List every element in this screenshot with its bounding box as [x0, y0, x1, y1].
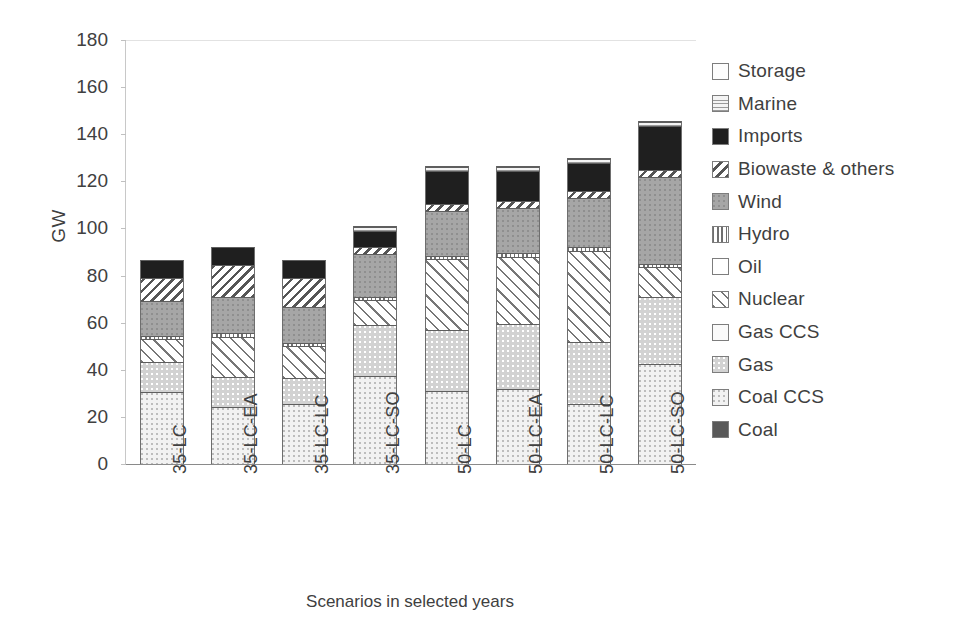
bar-segment-imports — [496, 171, 540, 202]
bar-segment-nuclear — [638, 267, 682, 296]
bar-segment-marine — [567, 159, 611, 163]
legend-item-coal-ccs[interactable]: Coal CCS — [712, 381, 952, 414]
legend-item-label: Imports — [738, 125, 803, 147]
y-tick-label: 0 — [62, 453, 108, 475]
x-tick-label-50-lc-lc: 50-LC-LC — [597, 354, 618, 474]
legend-item-label: Biowaste & others — [738, 158, 895, 180]
y-tick-mark — [121, 87, 126, 88]
bar-segment-marine — [638, 122, 682, 126]
legend-item-gas[interactable]: Gas — [712, 348, 952, 381]
legend-item-label: Oil — [738, 256, 762, 278]
legend-item-oil[interactable]: Oil — [712, 251, 952, 284]
bar-segment-marine — [425, 167, 469, 171]
bar-segment-wind — [425, 211, 469, 256]
wind-swatch — [712, 193, 729, 210]
legend-item-biowaste-and-others[interactable]: Biowaste & others — [712, 153, 952, 186]
coal-ccs-swatch — [712, 389, 729, 406]
y-tick-mark — [121, 276, 126, 277]
legend-item-storage[interactable]: Storage — [712, 55, 952, 88]
bar-segment-storage — [638, 121, 682, 122]
bar-segment-hydro — [638, 264, 682, 268]
legend-item-imports[interactable]: Imports — [712, 120, 952, 153]
bar-segment-nuclear — [425, 259, 469, 330]
legend-item-label: Gas CCS — [738, 321, 820, 343]
y-tick-mark — [121, 323, 126, 324]
bar-segment-hydro — [282, 343, 326, 347]
bar-segment-wind — [638, 177, 682, 264]
bar-segment-wind — [567, 198, 611, 247]
legend-item-label: Hydro — [738, 223, 790, 245]
legend-item-label: Nuclear — [738, 288, 805, 310]
legend-item-label: Storage — [738, 60, 806, 82]
legend-item-coal[interactable]: Coal — [712, 414, 952, 447]
bar-segment-storage — [425, 166, 469, 167]
bar-segment-hydro — [211, 333, 255, 337]
bar-segment-wind — [282, 307, 326, 342]
x-tick-label-50-lc-so: 50-LC-SO — [668, 354, 689, 474]
x-tick-label-35-lc-so: 35-LC-SO — [383, 354, 404, 474]
bar-segment-hydro — [567, 247, 611, 251]
stacked-bar-chart: GW 180160140120100806040200 35-LC35-LC-E… — [0, 0, 958, 626]
biowaste-swatch — [712, 161, 729, 178]
y-tick-label: 60 — [62, 312, 108, 334]
bar-segment-hydro — [496, 253, 540, 257]
y-tick-mark — [121, 40, 126, 41]
legend-item-gas-ccs[interactable]: Gas CCS — [712, 316, 952, 349]
bar-segment-nuclear — [496, 257, 540, 324]
bar-segment-biowaste-and-others — [496, 201, 540, 208]
x-tick-label-50-lc: 50-LC — [455, 354, 476, 474]
bar-segment-storage — [567, 158, 611, 159]
y-axis-tick-labels: 180160140120100806040200 — [62, 0, 108, 626]
legend-item-label: Wind — [738, 191, 782, 213]
imports-swatch — [712, 128, 729, 145]
x-axis-title: Scenarios in selected years — [125, 592, 695, 612]
bar-segment-wind — [140, 301, 184, 335]
bar-segment-nuclear — [353, 300, 397, 325]
bar-segment-wind — [353, 254, 397, 296]
bar-segment-hydro — [425, 256, 469, 260]
legend-item-nuclear[interactable]: Nuclear — [712, 283, 952, 316]
y-tick-label: 100 — [62, 217, 108, 239]
bar-segment-hydro — [353, 297, 397, 301]
legend-item-label: Gas — [738, 354, 773, 376]
y-tick-label: 140 — [62, 123, 108, 145]
bar-segment-wind — [496, 208, 540, 253]
legend-item-marine[interactable]: Marine — [712, 88, 952, 121]
bar-segment-hydro — [140, 336, 184, 340]
hydro-swatch — [712, 226, 729, 243]
y-tick-label: 160 — [62, 76, 108, 98]
bar-segment-biowaste-and-others — [425, 204, 469, 211]
y-tick-mark — [121, 417, 126, 418]
bar-segment-biowaste-and-others — [353, 247, 397, 254]
bar-segment-wind — [211, 297, 255, 334]
x-tick-label-35-lc-lc: 35-LC-LC — [312, 354, 333, 474]
bar-segment-biowaste-and-others — [282, 278, 326, 307]
x-tick-label-35-lc-ea: 35-LC-EA — [241, 354, 262, 474]
bar-segment-storage — [353, 226, 397, 227]
bar-segment-marine — [353, 227, 397, 231]
legend-item-hydro[interactable]: Hydro — [712, 218, 952, 251]
legend-item-wind[interactable]: Wind — [712, 185, 952, 218]
legend-item-label: Coal CCS — [738, 386, 824, 408]
bar-segment-biowaste-and-others — [211, 265, 255, 297]
y-tick-label: 20 — [62, 406, 108, 428]
gas-ccs-swatch — [712, 324, 729, 341]
bar-segment-imports — [282, 260, 326, 278]
x-tick-label-35-lc: 35-LC — [170, 354, 191, 474]
bar-segment-nuclear — [567, 251, 611, 342]
bar-segment-imports — [425, 171, 469, 204]
gas-swatch — [712, 356, 729, 373]
bar-segment-imports — [638, 126, 682, 170]
marine-swatch — [712, 95, 729, 112]
bar-segment-marine — [496, 167, 540, 171]
y-tick-mark — [121, 181, 126, 182]
bar-segment-storage — [496, 166, 540, 167]
y-tick-mark — [121, 370, 126, 371]
bar-segment-imports — [567, 163, 611, 191]
bar-segment-biowaste-and-others — [638, 170, 682, 177]
bar-segment-imports — [353, 231, 397, 247]
y-tick-mark — [121, 464, 126, 465]
y-tick-mark — [121, 134, 126, 135]
y-tick-mark — [121, 228, 126, 229]
chart-legend: StorageMarineImportsBiowaste & othersWin… — [712, 55, 952, 446]
